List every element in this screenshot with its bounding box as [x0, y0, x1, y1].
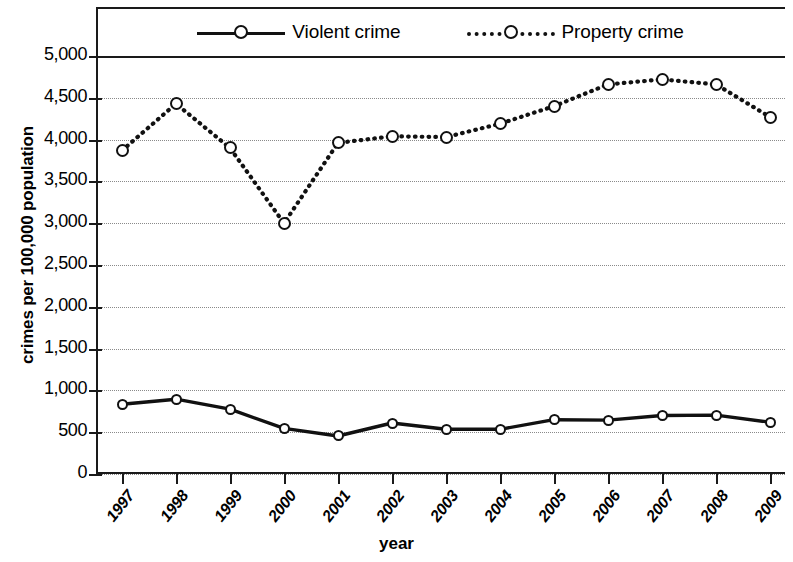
series-line-layer [0, 0, 793, 562]
data-point-marker [332, 136, 345, 149]
data-point-marker [116, 144, 129, 157]
series-line-property-crime [122, 79, 770, 223]
data-point-marker [225, 404, 236, 415]
data-point-marker [333, 430, 344, 441]
data-point-marker [117, 399, 128, 410]
data-point-marker [224, 141, 237, 154]
data-point-marker [656, 73, 669, 86]
data-point-marker [441, 424, 452, 435]
data-point-marker [710, 78, 723, 91]
data-point-marker [279, 423, 290, 434]
data-point-marker [170, 97, 183, 110]
data-point-marker [603, 415, 614, 426]
data-point-marker [764, 111, 777, 124]
data-point-marker [278, 217, 291, 230]
data-point-marker [602, 78, 615, 91]
data-point-marker [548, 100, 561, 113]
data-point-marker [711, 410, 722, 421]
data-point-marker [549, 414, 560, 425]
data-point-marker [440, 131, 453, 144]
x-axis-title: year [0, 534, 793, 554]
data-point-marker [765, 417, 776, 428]
data-point-marker [386, 130, 399, 143]
data-point-marker [171, 394, 182, 405]
data-point-marker [657, 410, 668, 421]
data-point-marker [495, 424, 506, 435]
data-point-marker [387, 418, 398, 429]
line-chart: crimes per 100,000 population Violent cr… [0, 0, 793, 562]
data-point-marker [494, 117, 507, 130]
